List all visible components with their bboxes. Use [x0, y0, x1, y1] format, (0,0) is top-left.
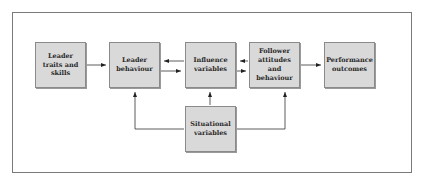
node-leader-behaviour: Leader behaviour [109, 42, 160, 88]
node-label: Performance outcomes [326, 56, 373, 74]
edge-situational-to-behaviour [135, 92, 184, 129]
edge-situational-to-follower [237, 92, 285, 129]
node-leader-traits: Leader traits and skills [35, 42, 86, 88]
node-label: Leader behaviour [112, 56, 157, 74]
node-label: Leader traits and skills [38, 52, 83, 78]
node-label: Influence variables [188, 56, 233, 74]
node-performance-outcomes: Performance outcomes [324, 42, 375, 88]
node-situational-variables: Situational variables [185, 106, 236, 152]
node-label: Situational variables [188, 120, 233, 138]
node-influence-variables: Influence variables [185, 42, 236, 88]
arrows-layer [0, 0, 422, 185]
node-label: Follower attitudes and behaviour [252, 47, 297, 82]
node-follower-attitudes: Follower attitudes and behaviour [249, 42, 300, 88]
